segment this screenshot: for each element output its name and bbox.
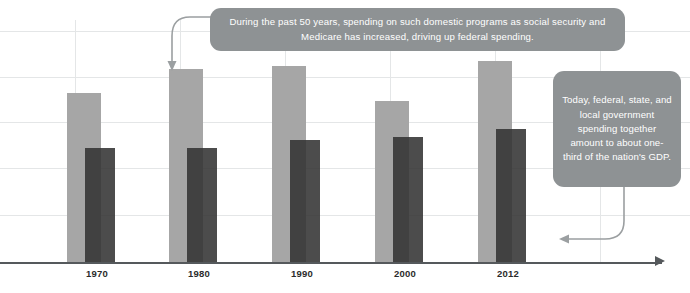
x-axis-line [0, 262, 662, 264]
x-tick-label-1980: 1980 [169, 268, 229, 279]
callout-connector-arrow-right-icon [545, 175, 655, 255]
bar-federal-1990[interactable] [290, 140, 320, 263]
callout-text: Today, federal, state, and local governm… [561, 93, 673, 164]
bar-federal-1970[interactable] [85, 148, 115, 263]
bar-group-1970 [67, 1, 127, 263]
bar-federal-2012[interactable] [496, 129, 526, 263]
x-tick-label-2012: 2012 [478, 268, 538, 279]
callout-box-gdp-share[interactable]: Today, federal, state, and local governm… [553, 71, 681, 187]
x-tick-label-1990: 1990 [272, 268, 332, 279]
bar-chart: 1970 1980 1990 2000 2012 During the past… [0, 0, 690, 293]
bar-federal-1980[interactable] [187, 148, 217, 263]
x-tick-label-2000: 2000 [375, 268, 435, 279]
bar-federal-2000[interactable] [393, 137, 423, 263]
callout-text: During the past 50 years, spending on su… [222, 15, 613, 44]
x-tick-label-1970: 1970 [67, 268, 127, 279]
x-axis-arrow-icon [655, 256, 665, 266]
callout-box-federal-spending[interactable]: During the past 50 years, spending on su… [210, 8, 625, 51]
